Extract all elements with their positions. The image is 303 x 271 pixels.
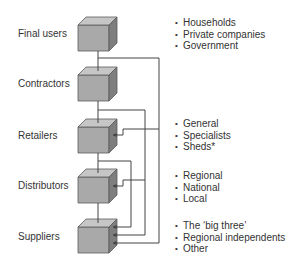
bullet-text: General [183,118,219,130]
bullet-item: •Households [175,17,265,29]
bullet-text: Private companies [183,29,265,41]
bullet-icon: • [175,220,183,232]
cube-distributors [78,169,117,203]
bullet-item: •Regional independents [175,232,285,244]
bullet-item: •Local [175,193,222,205]
bullet-item: •Government [175,40,265,52]
bullet-item: •General [175,118,231,130]
bullet-icon: • [175,17,183,29]
cube-retailers [78,119,117,153]
cube-front-face [78,75,109,101]
bullet-item: •National [175,182,222,194]
cube-final-users [78,17,117,51]
bullet-icon: • [175,141,183,153]
bullet-text: Regional [183,170,222,182]
stage-label-contractors: Contractors [18,78,70,90]
cube-suppliers [78,219,117,253]
bullet-text: The ‘big three’ [183,220,246,232]
bullet-icon: • [175,243,183,255]
bullet-icon: • [175,193,183,205]
suppliers-bullet-list: •The ‘big three’ •Regional independents … [175,220,285,255]
bullet-text: Government [183,40,238,52]
bullet-item: •The ‘big three’ [175,220,285,232]
bullet-item: •Private companies [175,29,265,41]
bullet-item: •Specialists [175,130,231,142]
distributors-bullet-list: •Regional •National •Local [175,170,222,205]
bullet-item: •Other [175,243,285,255]
bullet-icon: • [175,182,183,194]
bullet-icon: • [175,232,183,244]
bullet-item: •Sheds* [175,141,231,153]
bullet-icon: • [175,29,183,41]
final-users-bullet-list: •Households •Private companies •Governme… [175,17,265,52]
bullet-icon: • [175,130,183,142]
bullet-item: •Regional [175,170,222,182]
bullet-icon: • [175,40,183,52]
cube-front-face [78,25,109,51]
bullet-text: National [183,182,220,194]
bullet-icon: • [175,118,183,130]
cube-front-face [78,127,109,153]
cube-front-face [78,177,109,203]
bullet-text: Regional independents [183,232,285,244]
stage-label-distributors: Distributors [18,180,69,192]
bullet-text: Other [183,243,208,255]
stage-label-suppliers: Suppliers [18,231,60,243]
cube-front-face [78,227,109,253]
bullet-text: Local [183,193,207,205]
stage-label-retailers: Retailers [18,130,57,142]
bullet-icon: • [175,170,183,182]
bullet-text: Sheds* [183,141,215,153]
retailers-bullet-list: •General •Specialists •Sheds* [175,118,231,153]
connector-to-retailers [113,129,159,135]
bullet-text: Households [183,17,236,29]
cube-contractors [78,67,117,101]
connector-to-distributors [113,180,145,186]
stage-label-final-users: Final users [18,28,67,40]
bullet-text: Specialists [183,130,231,142]
